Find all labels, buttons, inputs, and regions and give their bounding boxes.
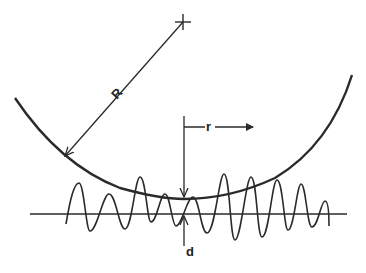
radius-label-R: R [108, 85, 126, 102]
rough-surface-profile [66, 174, 329, 240]
separation-label-d: d [186, 244, 194, 259]
radius-line [65, 22, 183, 156]
contact-diagram: R r d [0, 0, 366, 273]
radius-label-r: r [206, 119, 211, 134]
